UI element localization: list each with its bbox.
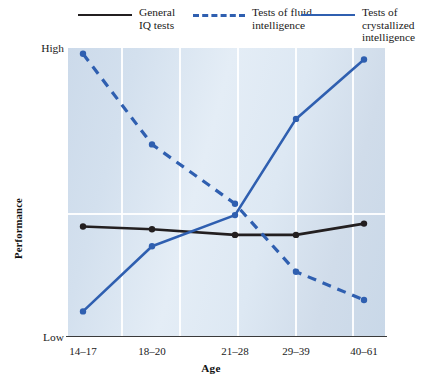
legend-label-tests-of-crystallized-intelligence: Tests of crystallized intelligence	[362, 6, 422, 44]
series-line-2	[83, 60, 364, 312]
data-point-0-4	[361, 220, 367, 226]
legend-item-tests-of-fluid-intelligence: Tests of fluid intelligence	[193, 6, 312, 31]
series-line-1	[83, 54, 364, 300]
legend-label-general-iq-tests: General IQ tests	[139, 6, 175, 31]
legend-swatch-dashed-blue-icon	[193, 14, 245, 17]
series-line-0	[83, 224, 364, 235]
data-point-1-1	[149, 141, 155, 147]
data-point-2-0	[80, 308, 86, 314]
data-point-1-2	[232, 201, 238, 207]
x-axis-tick-3: 29–39	[266, 345, 326, 357]
legend-swatch-solid-black-icon	[78, 14, 132, 16]
x-axis-tick-0: 14–17	[53, 345, 113, 357]
data-point-1-3	[293, 269, 299, 275]
data-point-0-1	[149, 226, 155, 232]
legend-item-general-iq-tests: General IQ tests	[78, 6, 175, 31]
chart-figure: General IQ tests Tests of fluid intellig…	[0, 0, 422, 387]
legend-item-tests-of-crystallized-intelligence: Tests of crystallized intelligence	[301, 6, 422, 44]
data-point-2-2	[232, 212, 238, 218]
y-axis-title: Performance	[13, 174, 24, 284]
data-point-2-1	[149, 243, 155, 249]
x-axis-line	[66, 336, 387, 337]
data-point-1-0	[80, 51, 86, 57]
x-axis-title: Age	[0, 362, 422, 374]
legend-swatch-solid-blue-icon	[301, 14, 355, 16]
x-axis-tick-4: 40–61	[334, 345, 394, 357]
data-point-1-4	[361, 297, 367, 303]
data-point-0-2	[232, 232, 238, 238]
data-point-2-3	[293, 116, 299, 122]
y-axis-label-high: High	[20, 42, 64, 54]
data-point-0-0	[80, 223, 86, 229]
y-axis-label-low: Low	[20, 331, 64, 343]
x-axis-tick-1: 18–20	[122, 345, 182, 357]
x-axis-tick-2: 21–28	[205, 345, 265, 357]
data-point-0-3	[293, 232, 299, 238]
data-series-layer	[68, 48, 385, 337]
chart-legend: General IQ tests Tests of fluid intellig…	[0, 6, 422, 40]
plot-area	[68, 48, 385, 337]
data-point-2-4	[361, 56, 367, 62]
